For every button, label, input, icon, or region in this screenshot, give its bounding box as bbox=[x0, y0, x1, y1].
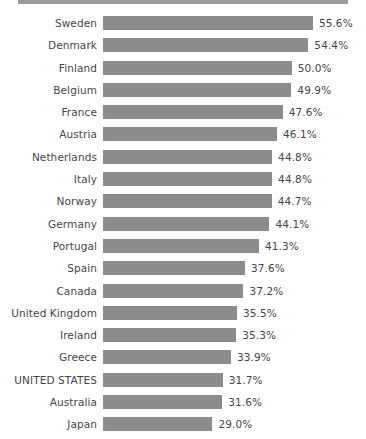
bar-value-label: 37.2% bbox=[249, 280, 283, 302]
bar-category-label: Japan bbox=[67, 413, 97, 435]
bar-fill bbox=[103, 194, 272, 208]
bar-category-label: Norway bbox=[57, 190, 97, 212]
bar-value-label: 54.4% bbox=[314, 34, 348, 56]
bar-category-label: Denmark bbox=[48, 34, 97, 56]
bar-row: Spain37.6% bbox=[0, 257, 366, 279]
bar-value-label: 33.9% bbox=[237, 346, 271, 368]
bar-track: 44.7% bbox=[103, 190, 366, 212]
bar-fill bbox=[103, 239, 259, 253]
bar-track: 44.8% bbox=[103, 168, 366, 190]
bar-value-label: 35.3% bbox=[242, 324, 276, 346]
bar-fill bbox=[103, 16, 313, 30]
bar-track: 47.6% bbox=[103, 101, 366, 123]
bar-row: Finland50.0% bbox=[0, 57, 366, 79]
bar-rows-container: Sweden55.6%Denmark54.4%Finland50.0%Belgi… bbox=[0, 12, 366, 436]
bar-value-label: 50.0% bbox=[298, 57, 332, 79]
bar-value-label: 35.5% bbox=[243, 302, 277, 324]
bar-fill bbox=[103, 83, 291, 97]
bar-track: 31.7% bbox=[103, 369, 366, 391]
bar-category-label: Netherlands bbox=[32, 146, 97, 168]
bar-category-label: Italy bbox=[74, 168, 97, 190]
bar-row: United Kingdom35.5% bbox=[0, 302, 366, 324]
bar-fill bbox=[103, 417, 212, 431]
bar-value-label: 44.1% bbox=[275, 213, 309, 235]
bar-track: 37.2% bbox=[103, 280, 366, 302]
bar-value-label: 44.7% bbox=[278, 190, 312, 212]
bar-track: 50.0% bbox=[103, 57, 366, 79]
bar-fill bbox=[103, 150, 272, 164]
bar-track: 49.9% bbox=[103, 79, 366, 101]
bar-fill bbox=[103, 306, 237, 320]
bar-category-label: Portugal bbox=[53, 235, 97, 257]
bar-fill bbox=[103, 261, 245, 275]
bar-value-label: 29.0% bbox=[218, 413, 252, 435]
bar-track: 44.1% bbox=[103, 213, 366, 235]
bar-row: Portugal41.3% bbox=[0, 235, 366, 257]
bar-row: Greece33.9% bbox=[0, 346, 366, 368]
bar-category-label: Ireland bbox=[60, 324, 97, 346]
bar-category-label: United Kingdom bbox=[11, 302, 97, 324]
bar-value-label: 47.6% bbox=[289, 101, 323, 123]
bar-fill bbox=[103, 127, 277, 141]
bar-category-label: Australia bbox=[50, 391, 97, 413]
bar-track: 41.3% bbox=[103, 235, 366, 257]
bar-fill bbox=[103, 350, 231, 364]
bar-category-label: Canada bbox=[56, 280, 97, 302]
bar-fill bbox=[103, 38, 308, 52]
bar-row: Norway44.7% bbox=[0, 190, 366, 212]
bar-category-label: Greece bbox=[59, 346, 97, 368]
bar-row: Canada37.2% bbox=[0, 280, 366, 302]
bar-category-label: Germany bbox=[48, 213, 97, 235]
bar-value-label: 46.1% bbox=[283, 123, 317, 145]
bar-fill bbox=[103, 284, 243, 298]
bar-track: 44.8% bbox=[103, 146, 366, 168]
bar-category-label: Spain bbox=[67, 257, 97, 279]
bar-row: Japan29.0% bbox=[0, 413, 366, 435]
bar-row: UNITED STATES31.7% bbox=[0, 369, 366, 391]
bar-fill bbox=[103, 217, 269, 231]
bar-track: 29.0% bbox=[103, 413, 366, 435]
bar-row: Australia31.6% bbox=[0, 391, 366, 413]
bar-fill bbox=[103, 373, 223, 387]
bar-track: 54.4% bbox=[103, 34, 366, 56]
bar-fill bbox=[103, 395, 222, 409]
bar-category-label: UNITED STATES bbox=[14, 369, 97, 391]
bar-track: 35.3% bbox=[103, 324, 366, 346]
bar-row: Italy44.8% bbox=[0, 168, 366, 190]
bar-category-label: Austria bbox=[59, 123, 97, 145]
top-cutoff-strip bbox=[18, 0, 348, 4]
bar-value-label: 49.9% bbox=[297, 79, 331, 101]
bar-value-label: 31.7% bbox=[229, 369, 263, 391]
bar-category-label: Belgium bbox=[53, 79, 97, 101]
bar-track: 37.6% bbox=[103, 257, 366, 279]
bar-row: Germany44.1% bbox=[0, 213, 366, 235]
bar-track: 33.9% bbox=[103, 346, 366, 368]
bar-fill bbox=[103, 61, 292, 75]
bar-value-label: 55.6% bbox=[319, 12, 353, 34]
bar-category-label: Sweden bbox=[55, 12, 97, 34]
horizontal-bar-chart: Sweden55.6%Denmark54.4%Finland50.0%Belgi… bbox=[0, 0, 366, 439]
bar-row: Austria46.1% bbox=[0, 123, 366, 145]
bar-row: Belgium49.9% bbox=[0, 79, 366, 101]
bar-fill bbox=[103, 105, 283, 119]
bar-track: 35.5% bbox=[103, 302, 366, 324]
bar-value-label: 44.8% bbox=[278, 146, 312, 168]
bar-value-label: 44.8% bbox=[278, 168, 312, 190]
bar-value-label: 41.3% bbox=[265, 235, 299, 257]
bar-value-label: 37.6% bbox=[251, 257, 285, 279]
bar-category-label: Finland bbox=[59, 57, 97, 79]
bar-row: France47.6% bbox=[0, 101, 366, 123]
bar-row: Netherlands44.8% bbox=[0, 146, 366, 168]
bar-track: 31.6% bbox=[103, 391, 366, 413]
bar-row: Denmark54.4% bbox=[0, 34, 366, 56]
bar-track: 46.1% bbox=[103, 123, 366, 145]
bar-track: 55.6% bbox=[103, 12, 366, 34]
bar-fill bbox=[103, 328, 236, 342]
bar-value-label: 31.6% bbox=[228, 391, 262, 413]
bar-fill bbox=[103, 172, 272, 186]
bar-row: Sweden55.6% bbox=[0, 12, 366, 34]
bar-row: Ireland35.3% bbox=[0, 324, 366, 346]
bar-category-label: France bbox=[61, 101, 97, 123]
